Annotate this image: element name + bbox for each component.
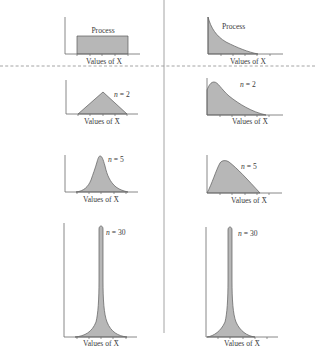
x-axis-label: Values of X xyxy=(230,57,266,66)
axes xyxy=(206,227,278,337)
narrow-normal-distribution-shape xyxy=(75,226,127,337)
x-axis-label: Values of X̄ xyxy=(84,117,120,126)
sample-size-label: n = 2 xyxy=(114,90,130,99)
sampling-distribution-figure: Process Values of X Process Values of X xyxy=(0,0,316,357)
uniform-distribution-shape xyxy=(77,36,128,54)
panel-right-n5: n = 5 Values of X̄ xyxy=(207,155,282,205)
panel-left-process: Process Values of X xyxy=(65,17,140,66)
narrow-normal-distribution-shape xyxy=(207,227,255,337)
x-axis-label: Values of X̄ xyxy=(232,117,268,126)
skewed-distribution-shape xyxy=(207,82,266,115)
process-label: Process xyxy=(91,26,114,35)
panel-left-n30: n = 30 Values of X̄ xyxy=(64,223,137,348)
panel-right-n30: n = 30 Values of X̄ xyxy=(206,227,278,348)
figure-canvas: Process Values of X Process Values of X xyxy=(0,0,316,357)
sample-size-label: n = 30 xyxy=(238,229,258,238)
x-axis-label: Values of X̄ xyxy=(231,196,267,205)
x-axis-label: Values of X̄ xyxy=(83,339,119,348)
sample-size-label: n = 5 xyxy=(241,162,257,171)
x-axis-label: Values of X̄ xyxy=(224,339,260,348)
sample-size-label: n = 5 xyxy=(108,155,124,164)
panel-right-process: Process Values of X xyxy=(208,17,283,66)
x-axis-label: Values of X̄ xyxy=(83,195,119,204)
panel-left-n5: n = 5 Values of X̄ xyxy=(65,155,138,204)
x-axis-label: Values of X xyxy=(86,57,122,66)
sample-size-label: n = 2 xyxy=(240,80,256,89)
panel-right-n2: n = 2 Values of X̄ xyxy=(207,78,283,126)
process-label: Process xyxy=(222,22,245,31)
sample-size-label: n = 30 xyxy=(106,228,126,237)
panel-left-n2: n = 2 Values of X̄ xyxy=(66,80,138,126)
